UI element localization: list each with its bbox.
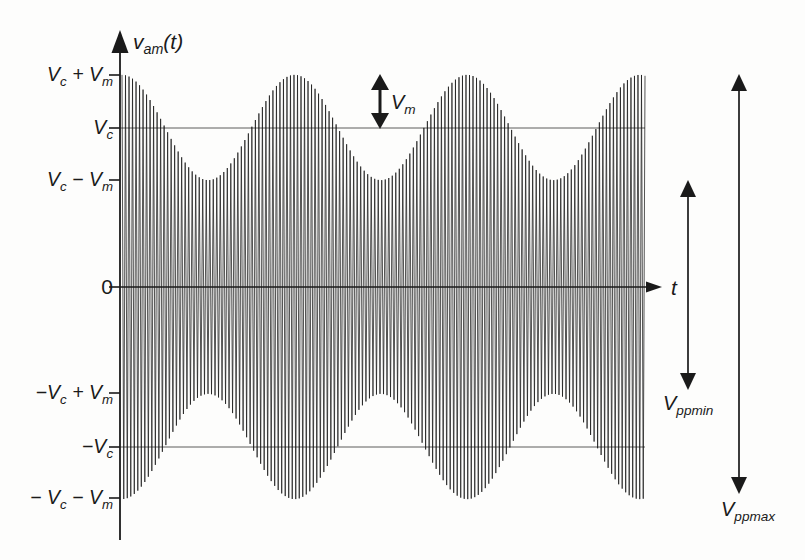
tick-label-vc-minus-vm: Vc − Vm <box>0 170 113 190</box>
vppmin-arrow-down-head <box>680 373 696 390</box>
vppmax-arrow-up-head <box>731 74 747 91</box>
vppmax-arrow-down-head <box>731 477 747 494</box>
vppmax-arrow <box>731 74 747 494</box>
tick-label-neg-vc-minus-vm: − Vc − Vm <box>0 488 113 508</box>
tick-label-vc-plus-vm: Vc + Vm <box>0 65 113 85</box>
y-axis-arrowhead <box>112 30 129 53</box>
x-axis-arrowhead <box>646 282 662 293</box>
vppmax-label: Vppmax <box>721 499 775 519</box>
tick-label-neg-vc-plus-vm: −Vc + Vm <box>0 383 113 403</box>
vm-arrow <box>371 74 389 129</box>
tick-label-vc: Vc <box>0 118 113 138</box>
tick-label-neg-vc: −Vc <box>0 437 113 457</box>
vppmin-arrow-up-head <box>680 180 696 197</box>
am-waveform-figure: vam(t) Vc + Vm Vc Vc − Vm 0 −Vc + Vm −Vc… <box>0 0 805 560</box>
vm-arrow-up-head <box>371 74 389 90</box>
waveform-canvas <box>0 0 805 560</box>
origin-label: 0 <box>0 276 113 297</box>
vppmin-label: Vppmin <box>663 393 713 413</box>
vm-arrow-down-head <box>371 113 389 129</box>
vm-label: Vm <box>391 92 416 112</box>
x-axis-label: t <box>671 277 677 298</box>
y-axis-label: vam(t) <box>133 31 183 52</box>
vppmin-arrow <box>680 180 696 390</box>
